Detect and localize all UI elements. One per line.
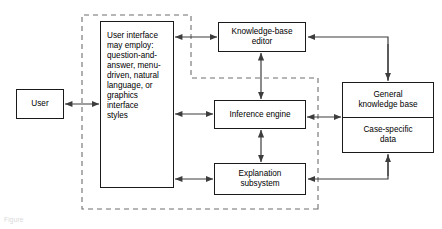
node-explanation-subsystem[interactable]: Explanation subsystem [214, 163, 306, 195]
figure-caption: Figure [4, 216, 24, 223]
edge-casedata-explanation [308, 154, 388, 179]
edge-gkb-kbeditor [308, 37, 388, 81]
diagram-canvas: User User interface may employ: question… [0, 0, 442, 229]
ui-text-graphics: graphics interface styles [107, 91, 138, 120]
node-user-label: User [28, 99, 51, 109]
node-user-interface[interactable]: User interface may employ: question-and-… [100, 21, 174, 188]
node-case-specific-data-label: Case-specific data [360, 125, 415, 145]
node-knowledge-base-editor[interactable]: Knowledge-base editor [218, 22, 306, 52]
node-user[interactable]: User [16, 89, 64, 119]
node-explanation-subsystem-label: Explanation subsystem [236, 169, 285, 189]
node-general-knowledge-base-label: General knowledge base [355, 90, 420, 110]
node-inference-engine[interactable]: Inference engine [214, 100, 306, 129]
node-inference-engine-label: Inference engine [227, 110, 294, 120]
node-knowledge-base-stack[interactable]: General knowledge base Case-specific dat… [342, 82, 434, 153]
node-general-knowledge-base[interactable]: General knowledge base [343, 83, 433, 117]
node-knowledge-base-editor-label: Knowledge-base editor [229, 27, 296, 47]
ui-text-intro: User interface may employ: [107, 31, 158, 50]
node-case-specific-data[interactable]: Case-specific data [343, 117, 433, 152]
node-user-interface-labels: User interface may employ: question-and-… [107, 31, 173, 121]
